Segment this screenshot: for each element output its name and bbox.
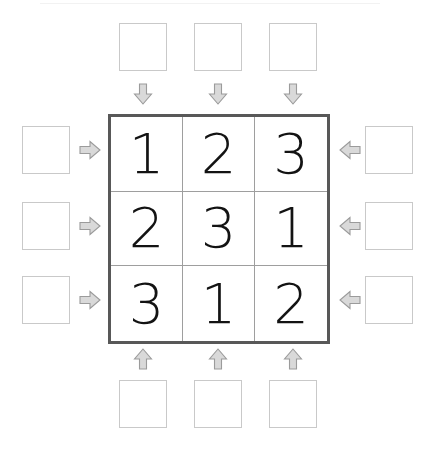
clue-value-right-3 (366, 277, 412, 323)
clue-value-left-2 (23, 203, 69, 249)
grid-cell-value-r2c1: 2 (129, 200, 165, 256)
grid-cell-value-r3c3: 2 (273, 276, 309, 332)
grid-cell-value-r3c2: 1 (201, 276, 237, 332)
clue-value-bottom-1 (120, 381, 166, 427)
grid-cell-value-r1c1: 1 (129, 126, 165, 182)
grid-cell-value-r1c3: 3 (273, 126, 309, 182)
clue-box-bottom-2[interactable] (194, 380, 242, 428)
clue-value-top-1 (120, 24, 166, 70)
arrow-left-icon-row-3 (339, 289, 361, 311)
clue-box-top-2[interactable] (194, 23, 242, 71)
clue-box-left-1[interactable] (22, 126, 70, 174)
grid-cell-value-r2c2: 3 (201, 200, 237, 256)
grid-cell-r2c3[interactable]: 1 (255, 192, 327, 267)
grid-cell-r1c1[interactable]: 1 (111, 117, 183, 192)
clue-box-top-3[interactable] (269, 23, 317, 71)
clue-value-right-1 (366, 127, 412, 173)
arrow-left-icon-row-1 (339, 139, 361, 161)
grid-cell-r3c2[interactable]: 1 (183, 266, 255, 341)
clue-box-top-1[interactable] (119, 23, 167, 71)
arrow-up-icon-col-3 (282, 348, 304, 370)
clue-box-right-2[interactable] (365, 202, 413, 250)
arrow-down-icon-col-3 (282, 83, 304, 105)
puzzle-grid[interactable]: 1 2 3 2 3 1 3 1 2 (108, 114, 330, 344)
arrow-right-icon-row-2 (79, 215, 101, 237)
clue-value-left-1 (23, 127, 69, 173)
clue-box-left-2[interactable] (22, 202, 70, 250)
clue-value-left-3 (23, 277, 69, 323)
clue-box-bottom-3[interactable] (269, 380, 317, 428)
puzzle-canvas: 1 2 3 2 3 1 3 1 2 (0, 0, 438, 449)
arrow-up-icon-col-2 (207, 348, 229, 370)
scan-artifact-line (40, 3, 380, 4)
clue-value-right-2 (366, 203, 412, 249)
grid-cell-value-r3c1: 3 (129, 276, 165, 332)
arrow-down-icon-col-1 (132, 83, 154, 105)
grid-cell-value-r1c2: 2 (201, 126, 237, 182)
clue-box-right-3[interactable] (365, 276, 413, 324)
arrow-up-icon-col-1 (132, 348, 154, 370)
grid-cell-r2c2[interactable]: 3 (183, 192, 255, 267)
arrow-right-icon-row-3 (79, 289, 101, 311)
grid-cell-value-r2c3: 1 (273, 200, 309, 256)
clue-box-left-3[interactable] (22, 276, 70, 324)
grid-cell-r3c1[interactable]: 3 (111, 266, 183, 341)
clue-value-bottom-3 (270, 381, 316, 427)
grid-cell-r1c3[interactable]: 3 (255, 117, 327, 192)
clue-box-right-1[interactable] (365, 126, 413, 174)
clue-value-top-3 (270, 24, 316, 70)
grid-cell-r2c1[interactable]: 2 (111, 192, 183, 267)
clue-value-bottom-2 (195, 381, 241, 427)
clue-box-bottom-1[interactable] (119, 380, 167, 428)
clue-value-top-2 (195, 24, 241, 70)
grid-cell-r3c3[interactable]: 2 (255, 266, 327, 341)
grid-cell-r1c2[interactable]: 2 (183, 117, 255, 192)
arrow-down-icon-col-2 (207, 83, 229, 105)
arrow-right-icon-row-1 (79, 139, 101, 161)
arrow-left-icon-row-2 (339, 215, 361, 237)
